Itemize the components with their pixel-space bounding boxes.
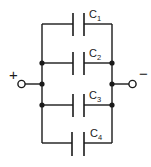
negative-sign: − xyxy=(139,65,148,82)
negative-terminal xyxy=(129,80,136,87)
junction-node xyxy=(39,60,44,65)
c1-label: C1 xyxy=(89,8,101,23)
junction-node xyxy=(109,60,114,65)
capacitor-circuit-diagram: C1 C2 C3 C4 + − xyxy=(0,0,151,167)
capacitor-c3: C3 xyxy=(42,89,112,117)
junction-node xyxy=(39,81,44,86)
positive-terminal xyxy=(18,80,25,87)
junction-node xyxy=(109,81,114,86)
capacitor-c1: C1 xyxy=(42,8,112,36)
c2-label: C2 xyxy=(89,47,101,62)
c3-label: C3 xyxy=(89,89,101,104)
junction-node xyxy=(39,102,44,107)
junction-node xyxy=(109,102,114,107)
capacitor-c4: C4 xyxy=(42,127,112,156)
capacitor-c2: C2 xyxy=(42,47,112,75)
c4-label: C4 xyxy=(90,127,102,142)
positive-sign: + xyxy=(9,66,18,83)
